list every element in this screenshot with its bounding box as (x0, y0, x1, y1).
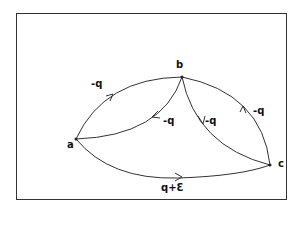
edge-label-b-c: -q (205, 116, 216, 126)
node-dot-a (75, 138, 78, 141)
node-dot-c (269, 164, 272, 167)
edge-label-c-b: -q (253, 106, 264, 116)
arrow-icon-a-c (175, 173, 182, 181)
edge-b-c (182, 77, 270, 165)
arrow-icon-c-b (240, 106, 246, 113)
edge-a-c (76, 139, 270, 178)
node-label-b: b (176, 60, 183, 70)
node-label-c: c (278, 159, 284, 169)
edge-label-b-a: -q (163, 116, 174, 126)
node-dot-b (181, 76, 184, 79)
edge-label-a-c: q+Ɛ (161, 183, 184, 193)
node-label-a: a (67, 140, 74, 150)
edge-c-b (182, 77, 270, 165)
edge-label-a-b: -q (91, 79, 102, 89)
